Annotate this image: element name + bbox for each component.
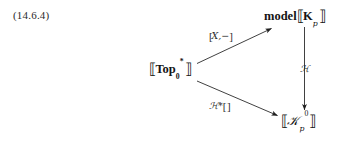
label-upper-body: X,− [212,30,230,41]
node-kp-symbol: 𝒦 [287,113,299,128]
node-model-subscript: p [313,19,318,28]
node-model-symbol: K [303,9,313,23]
open-bracket-icon: ⟦ [281,114,286,129]
equation-figure: (14.6.4) model⟦Kp⟧ ⟦Top0*⟧ ⟦𝒦p0⟧ [X,−] ℋ… [0,0,343,141]
node-model-prefix: model [264,9,297,23]
open-bracket-icon: ⟦ [149,62,154,77]
close-bracket-icon: ⟧ [185,62,190,77]
label-lower-body: ℋ* [209,100,223,111]
node-kp-subscript: p [299,124,304,133]
open-bracket-icon: ⟦ [297,9,302,24]
close-bracket-icon: ⟧ [309,114,314,129]
node-model-kp: model⟦Kp⟧ [264,9,324,24]
node-top-symbol: Top [155,62,175,76]
arrow-label-h: ℋ [300,64,309,75]
label-right-body: ℋ [300,63,309,74]
node-top-superscript: * [180,57,184,66]
node-kp-zero: ⟦𝒦p0⟧ [281,114,315,129]
arrow-label-hom: [X,−] [209,31,232,42]
node-top0-star: ⟦Top0*⟧ [149,62,190,77]
label-lower-brackets-icon: [ ] [223,100,230,112]
arrow-label-h-star: ℋ*[ ] [209,101,230,112]
label-close-bracket-icon: ] [229,30,232,42]
close-bracket-icon: ⟧ [319,9,324,24]
node-top-subscript: 0 [176,72,180,81]
node-kp-superscript: 0 [304,109,308,118]
